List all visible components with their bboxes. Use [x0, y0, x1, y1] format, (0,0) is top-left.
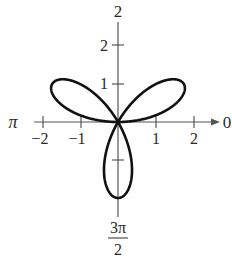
- x-tick-label-1: 1: [152, 130, 160, 147]
- y-tick-label-1: 1: [100, 75, 108, 92]
- y-tick-label-2: 2: [100, 37, 108, 54]
- label-top: 2: [114, 2, 123, 21]
- x-tick-label-neg2: −2: [31, 130, 48, 147]
- label-right: 0: [223, 113, 232, 132]
- label-left: π: [8, 112, 18, 132]
- arrow-right-icon: [211, 119, 220, 126]
- label-bottom-denominator: 2: [114, 241, 122, 258]
- label-bottom-numerator: 3π: [110, 219, 126, 236]
- x-tick-label-2: 2: [190, 130, 198, 147]
- polar-graph: 2 2 1 π 0 −2 −1 1 2 3π 2: [0, 0, 232, 268]
- x-tick-label-neg1: −1: [68, 130, 85, 147]
